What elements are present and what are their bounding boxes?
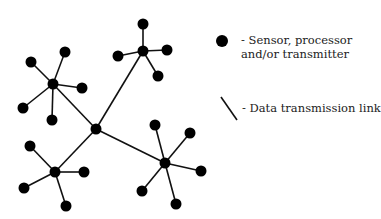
leaf-link xyxy=(155,125,165,163)
leaf-node xyxy=(153,71,164,82)
leaf-link xyxy=(165,163,176,204)
leaf-node xyxy=(25,141,36,152)
hub-node xyxy=(160,158,171,169)
leaf-node xyxy=(138,19,149,30)
legend-graphics xyxy=(216,35,237,120)
hub-node xyxy=(50,167,61,178)
leaf-node xyxy=(77,83,88,94)
leaf-node xyxy=(61,201,72,212)
hub-node xyxy=(91,124,102,135)
leaf-node xyxy=(171,199,182,210)
leaf-node xyxy=(162,45,173,56)
leaf-node xyxy=(137,186,148,197)
legend-node-label-line2: and/or transmitter xyxy=(241,47,352,61)
links-layer xyxy=(23,24,201,206)
legend-node-icon xyxy=(216,35,228,47)
hub-link xyxy=(53,84,96,129)
leaf-link xyxy=(165,163,201,171)
leaf-node xyxy=(26,57,37,68)
leaf-node xyxy=(196,166,207,177)
leaf-node xyxy=(150,120,161,131)
leaf-node xyxy=(47,115,58,126)
hub-node xyxy=(138,46,149,57)
leaf-node xyxy=(19,183,30,194)
legend-node-label: - Sensor, processor and/or transmitter xyxy=(241,33,352,61)
legend-link-label: - Data transmission link xyxy=(242,101,381,115)
hub-link xyxy=(96,129,165,163)
leaf-link xyxy=(165,133,190,163)
leaf-node xyxy=(18,103,29,114)
hub-node xyxy=(48,79,59,90)
hub-link xyxy=(96,51,143,129)
leaf-node xyxy=(185,128,196,139)
nodes-layer xyxy=(18,19,207,212)
legend-link-icon xyxy=(221,97,237,120)
leaf-node xyxy=(113,51,124,62)
hub-link xyxy=(55,129,96,172)
legend-node-label-line1: - Sensor, processor xyxy=(241,33,352,47)
leaf-link xyxy=(23,84,53,108)
leaf-node xyxy=(79,167,90,178)
leaf-node xyxy=(60,47,71,58)
